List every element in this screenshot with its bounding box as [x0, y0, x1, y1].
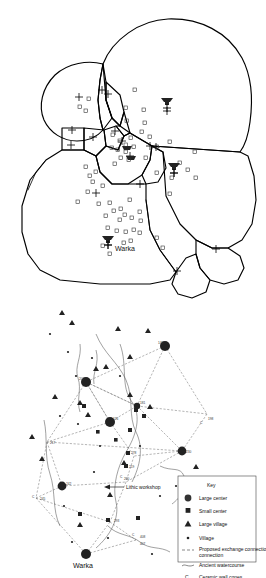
- village-node: [59, 415, 61, 417]
- site-label: 181: [140, 401, 146, 405]
- site-label: 126: [113, 417, 119, 421]
- legend-watercourse-icon: [182, 565, 194, 566]
- village-node: [119, 375, 121, 377]
- large-village-node: [127, 354, 133, 359]
- site-label: 198: [208, 417, 214, 421]
- legend-label-exchange-connection-line2: connection: [199, 552, 223, 558]
- site-label: 202: [79, 377, 85, 381]
- small-center-node: [114, 438, 118, 442]
- legend-ceramic-cones-icon: C: [185, 574, 189, 578]
- village-node: [71, 541, 73, 543]
- site-label: 408: [140, 535, 146, 539]
- village-node: [77, 423, 79, 425]
- lithic-workshop-arrow: [104, 485, 124, 490]
- legend-label-village: Village: [199, 535, 214, 541]
- cross-marker: [68, 126, 76, 134]
- village-node: [139, 445, 141, 447]
- large-village-node: [107, 492, 113, 497]
- cross-marker: [89, 133, 97, 141]
- large-village-node: [85, 412, 91, 417]
- site-label: 148: [158, 341, 164, 345]
- legend-label-large-village: Large village: [199, 521, 228, 527]
- warka-label-top: Warka: [115, 245, 135, 252]
- large-center-marker: [161, 98, 173, 112]
- large-village-node: [147, 404, 153, 409]
- thiessen-polygon-map-panel: Warka: [0, 0, 266, 300]
- small-center-node: [134, 408, 138, 412]
- small-center-node: [142, 414, 146, 418]
- cross-marker: [136, 180, 144, 188]
- site-label-c: C: [200, 421, 203, 425]
- large-village-node: [77, 400, 83, 405]
- site-label: 230: [186, 450, 192, 454]
- polygon-boundary-lower: [146, 200, 176, 272]
- polygon-boundary-left-arc: [28, 160, 46, 190]
- figure-root: Warka: [0, 0, 266, 578]
- site-label: 219: [129, 465, 135, 469]
- legend-village-icon: [187, 537, 190, 540]
- large-village-node: [115, 326, 121, 331]
- large-center-node: [81, 549, 91, 559]
- large-center-markers: [102, 98, 180, 249]
- legend-large-center-icon: [185, 495, 192, 502]
- large-center-marker: [168, 163, 180, 177]
- site-label-c: C: [132, 533, 135, 537]
- small-center-node: [126, 451, 130, 455]
- site-label: 260: [124, 477, 130, 481]
- exchange-network-map-panel: Lithic workshop: [0, 296, 266, 578]
- cross-marker: [118, 137, 126, 145]
- large-village-node: [69, 320, 75, 325]
- thiessen-map-svg: Warka: [0, 0, 266, 300]
- polygon-southwest: [22, 150, 176, 284]
- large-village-node: [193, 464, 199, 469]
- large-village-node: [52, 394, 58, 399]
- village-node: [159, 495, 161, 497]
- site-label: 245: [40, 497, 46, 501]
- small-center-node: [78, 512, 82, 516]
- site-label-c: C: [32, 495, 35, 499]
- legend-label-large-center: Large center: [199, 495, 227, 501]
- village-node: [91, 357, 93, 359]
- polygon-southeast-b: [172, 254, 210, 298]
- large-village-node: [93, 366, 99, 371]
- village-node: [151, 553, 153, 555]
- cross-marker: [212, 245, 220, 253]
- center-cross-markers: [67, 86, 220, 275]
- site-label: 407: [140, 542, 146, 546]
- site-label: 293: [114, 519, 120, 523]
- lithic-workshop-label: Lithic workshop: [126, 484, 161, 490]
- legend-label-small-center: Small center: [199, 508, 227, 514]
- polygon-east: [152, 146, 256, 248]
- large-village-node: [29, 434, 35, 439]
- warka-label-bottom: Warka: [73, 562, 93, 569]
- legend-small-center-icon: [186, 508, 191, 513]
- village-node: [75, 375, 77, 377]
- site-label: 242: [66, 482, 72, 486]
- polygon-southeast-a: [196, 240, 244, 284]
- small-center-node: [136, 516, 140, 520]
- cross-marker: [92, 189, 100, 197]
- site-label: 217: [50, 441, 56, 445]
- village-node: [175, 485, 177, 487]
- site-label-c: C: [120, 475, 123, 479]
- large-village-node: [103, 364, 109, 369]
- polygon-sliver-north: [98, 64, 112, 130]
- cross-marker: [67, 141, 75, 149]
- village-nodes: [49, 333, 177, 555]
- legend: Key Large center Small center Large vill…: [178, 476, 266, 578]
- large-village-node: [59, 310, 65, 315]
- legend-label-watercourse: Ancient watercourse: [199, 562, 245, 568]
- village-node: [67, 351, 69, 353]
- small-center-node: [106, 518, 110, 522]
- legend-title: Key: [207, 482, 216, 488]
- polygon-north: [103, 19, 251, 152]
- small-center-node: [96, 430, 100, 434]
- network-map-svg: Lithic workshop: [0, 296, 266, 578]
- legend-label-ceramic-cones: Ceramic wall cones: [199, 574, 243, 578]
- large-village-node: [145, 328, 151, 333]
- site-label: 278: [131, 451, 137, 455]
- village-node: [49, 333, 51, 335]
- cross-marker: [75, 93, 83, 101]
- village-node: [99, 445, 101, 447]
- small-center-node: [128, 428, 132, 432]
